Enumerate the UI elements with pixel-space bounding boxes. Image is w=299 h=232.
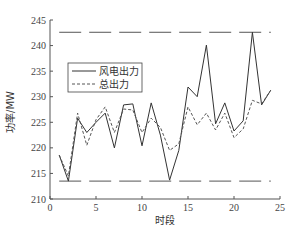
x-tick-label: 5	[94, 202, 99, 213]
x-tick-label: 25	[275, 202, 285, 213]
legend-label-total: 总出力	[99, 78, 129, 90]
y-axis-title: 功率/MW	[4, 91, 16, 133]
y-tick-label: 240	[31, 40, 46, 51]
data-series	[59, 32, 271, 181]
line-chart: 210215220225230235240245 0510152025 风电出力…	[0, 0, 299, 232]
wind-output-line	[59, 32, 271, 181]
y-tick-label: 230	[31, 91, 46, 102]
y-tick-label: 235	[31, 66, 46, 77]
x-tick-label: 15	[183, 202, 193, 213]
y-tick-label: 225	[31, 117, 46, 128]
axes	[50, 20, 280, 199]
y-tick-label: 215	[31, 168, 46, 179]
legend-label-wind: 风电出力	[99, 65, 139, 77]
y-tick-label: 210	[31, 194, 46, 205]
y-tick-label: 220	[31, 142, 46, 153]
total-output-line	[59, 90, 271, 176]
x-tick-label: 20	[229, 202, 239, 213]
x-axis-title: 时段	[155, 214, 175, 226]
y-tick-label: 245	[31, 15, 46, 26]
x-tick-label: 0	[48, 202, 53, 213]
legend: 风电出力 总出力	[68, 63, 142, 92]
x-tick-label: 10	[137, 202, 147, 213]
